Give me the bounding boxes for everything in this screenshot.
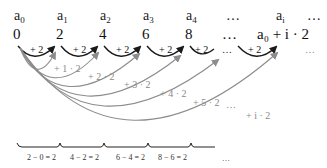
term-label: a2 bbox=[100, 8, 111, 25]
step-label: + 2 bbox=[195, 44, 208, 55]
value-ellipsis: … bbox=[222, 26, 237, 42]
difference-braces bbox=[17, 143, 215, 147]
term-label: ai bbox=[276, 8, 285, 25]
value: 4 bbox=[99, 26, 107, 42]
cumulative-label: + 4 · 2 bbox=[160, 88, 186, 99]
step-label: + 2 bbox=[116, 44, 129, 55]
value: 6 bbox=[142, 26, 150, 42]
term-label: a4 bbox=[186, 8, 197, 25]
cumulative-labels: + 1 · 2 + 2 · 2 + 3 · 2 + 4 · 2 + 5 · 2 … bbox=[54, 63, 270, 121]
cumulative-label: + 2 · 2 bbox=[88, 71, 114, 82]
value: 0 bbox=[13, 26, 21, 42]
term-labels-row: a0 a1 a2 a3 a4 … ai … bbox=[14, 8, 321, 25]
arithmetic-sequence-diagram: a0 a1 a2 a3 a4 … ai … 0 2 4 6 8 … a₀ + i… bbox=[0, 0, 327, 168]
difference-label: 2 − 0 = 2 bbox=[27, 153, 56, 162]
cumulative-label: + 1 · 2 bbox=[54, 63, 80, 74]
value: 8 bbox=[185, 26, 193, 42]
general-term-value: a₀ + i · 2 bbox=[257, 26, 309, 42]
step-ellipsis: … bbox=[222, 44, 232, 55]
term-ellipsis: … bbox=[226, 8, 240, 23]
term-ellipsis: … bbox=[307, 8, 321, 23]
difference-ellipsis: … bbox=[222, 154, 230, 163]
cumulative-label: + 3 · 2 bbox=[124, 79, 150, 90]
term-label: a0 bbox=[14, 8, 25, 25]
value: 2 bbox=[56, 26, 64, 42]
step-arcs bbox=[18, 46, 276, 56]
step-label: + 2 bbox=[73, 44, 86, 55]
step-label: + 2 bbox=[30, 44, 43, 55]
far-ellipsis: … bbox=[305, 44, 315, 55]
difference-label: 6 − 4 = 2 bbox=[116, 153, 145, 162]
difference-label: 8 − 6 = 2 bbox=[158, 153, 187, 162]
values-row: 0 2 4 6 8 … a₀ + i · 2 bbox=[13, 26, 309, 42]
cumulative-ellipsis: … bbox=[226, 99, 236, 110]
difference-label: 4 − 2 = 2 bbox=[70, 153, 99, 162]
step-label: + 2 bbox=[248, 44, 261, 55]
difference-labels: 2 − 0 = 2 4 − 2 = 2 6 − 4 = 2 8 − 6 = 2 … bbox=[27, 153, 230, 163]
step-label: + 2 bbox=[159, 44, 172, 55]
term-label: a3 bbox=[143, 8, 154, 25]
term-label: a1 bbox=[57, 8, 68, 25]
cumulative-label: + 5 · 2 bbox=[193, 97, 219, 108]
cumulative-label: + i · 2 bbox=[246, 110, 270, 121]
